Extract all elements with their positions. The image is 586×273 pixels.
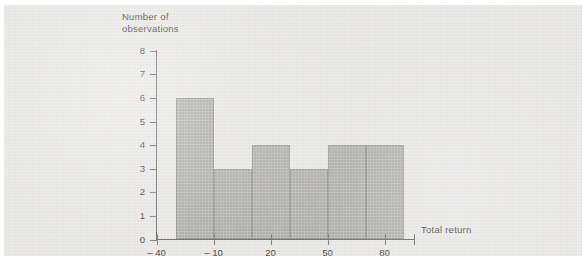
- histogram-bar: [328, 145, 366, 239]
- x-axis-tick-label: 80: [365, 248, 405, 258]
- y-axis-title: Number ofobservations: [122, 11, 179, 34]
- x-axis-tick: [385, 234, 386, 245]
- y-axis-tick-label: 4: [128, 140, 145, 150]
- y-axis-tick: [150, 98, 157, 99]
- histogram-bar: [252, 145, 290, 239]
- y-axis-title-line: Number of: [122, 11, 169, 22]
- y-axis-tick-label: 8: [128, 46, 145, 56]
- x-axis-tick: [214, 234, 215, 245]
- y-axis-tick: [150, 192, 157, 193]
- x-axis-tick: [271, 234, 272, 245]
- y-axis-tick-label: 3: [128, 164, 145, 174]
- x-axis-title: Total return: [421, 224, 472, 236]
- histogram-bar: [176, 98, 214, 240]
- histogram-bar: [366, 145, 404, 239]
- y-axis-tick: [150, 169, 157, 170]
- y-axis-tick-label: 0: [128, 235, 145, 245]
- y-axis-tick: [150, 145, 157, 146]
- y-axis-tick-label: 1: [128, 211, 145, 221]
- y-axis-tick: [150, 216, 157, 217]
- figure-panel: Number ofobservations Total return 01234…: [4, 5, 582, 256]
- y-axis-title-line: observations: [122, 23, 179, 34]
- x-axis-tick-label: – 10: [194, 248, 234, 258]
- x-axis-tick-label: 20: [251, 248, 291, 258]
- histogram-bar: [290, 169, 328, 240]
- y-axis-tick: [150, 74, 157, 75]
- y-axis-tick-label: 5: [128, 117, 145, 127]
- x-axis-tick-label: – 40: [137, 248, 177, 258]
- histogram-chart: Number ofobservations Total return 01234…: [4, 5, 582, 256]
- x-axis-tick: [157, 234, 158, 245]
- x-axis-tick-label: 50: [308, 248, 348, 258]
- histogram-bar: [214, 169, 252, 240]
- y-axis-tick-label: 6: [128, 93, 145, 103]
- x-axis-tick: [328, 234, 329, 245]
- y-axis-tick-label: 2: [128, 187, 145, 197]
- x-axis-title-tick: [414, 234, 415, 245]
- y-axis-tick-label: 7: [128, 69, 145, 79]
- y-axis-tick: [150, 51, 157, 52]
- x-axis-line: [156, 239, 414, 240]
- y-axis-tick: [150, 122, 157, 123]
